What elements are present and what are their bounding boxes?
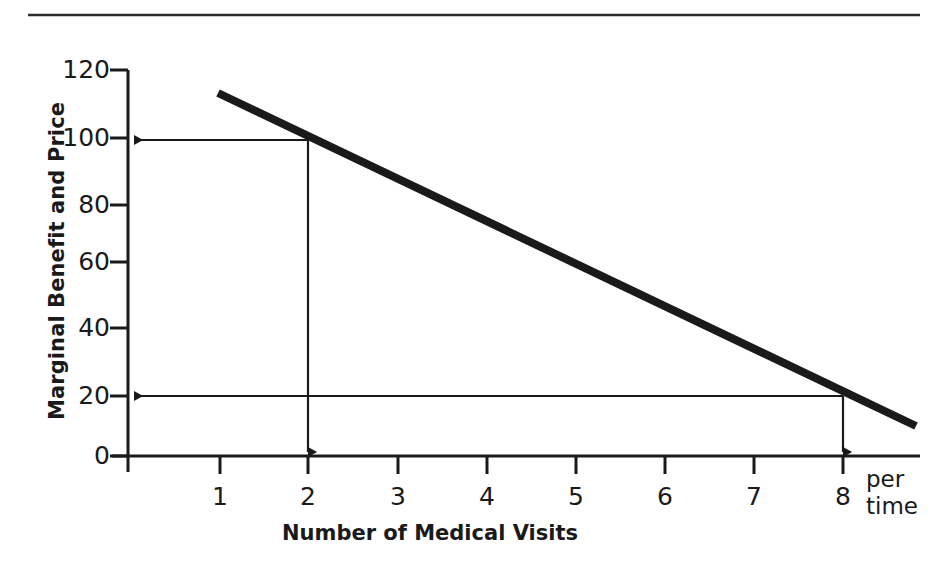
x-tick-label-2: 2: [288, 484, 328, 509]
x-tick-label-8: 8: [823, 484, 863, 509]
y-tick-label-120: 120: [10, 57, 110, 82]
x-tick-label-6: 6: [645, 484, 685, 509]
x-tick-label-4: 4: [467, 484, 507, 509]
y-axis-title: Marginal Benefit and Price: [45, 96, 69, 426]
x-axis-unit-note-line1: per: [866, 466, 918, 493]
x-tick-label-3: 3: [378, 484, 418, 509]
x-axis-ticks: [220, 456, 843, 474]
x-axis-unit-note: per time: [866, 466, 918, 520]
x-axis-title: Number of Medical Visits: [230, 521, 630, 545]
y-tick-label-0: 0: [10, 443, 110, 468]
x-tick-label-5: 5: [556, 484, 596, 509]
x-axis-unit-note-line2: time: [866, 493, 918, 520]
y-axis-ticks: [110, 70, 128, 456]
figure-canvas: 120 100 80 60 40 20 0 1 2 3 4 5 6 7 8 pe…: [0, 0, 940, 578]
marginal-benefit-demand-line: [218, 93, 916, 426]
x-tick-label-7: 7: [734, 484, 774, 509]
x-tick-label-1: 1: [200, 484, 240, 509]
